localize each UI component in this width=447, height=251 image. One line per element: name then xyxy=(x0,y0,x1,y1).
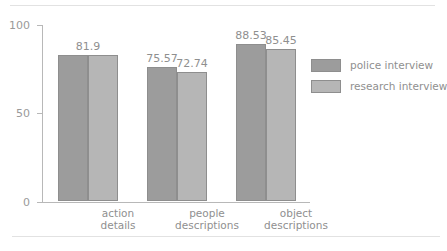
y-tick-label-100: 100 xyxy=(9,20,30,31)
y-axis-line xyxy=(42,25,43,203)
bar-police-interview-object-descriptions[interactable] xyxy=(236,44,266,201)
value-label-object-descriptions-research: 85.45 xyxy=(263,35,299,46)
value-label-people-descriptions-research: 72.74 xyxy=(174,58,210,69)
y-tick-mark-100: 100 xyxy=(37,25,42,26)
bottom-divider-rule xyxy=(12,236,440,237)
bar-research-interview-object-descriptions[interactable] xyxy=(266,49,296,201)
category-label-object-descriptions: object descriptions xyxy=(241,207,351,231)
legend-label-police-interview: police interview xyxy=(350,60,433,71)
value-label-action-details-shared: 81.9 xyxy=(58,41,118,52)
category-label-object-descriptions-line2: descriptions xyxy=(241,219,351,231)
y-tick-mark-50: 50 xyxy=(37,113,42,114)
bar-group-people-descriptions: 75.57 72.74 people descriptions xyxy=(147,25,207,202)
bar-police-interview-action-details[interactable] xyxy=(58,55,88,201)
chart-legend: police interview research interview xyxy=(311,57,447,99)
y-tick-label-0: 0 xyxy=(23,197,30,208)
legend-item-research-interview[interactable]: research interview xyxy=(311,78,447,95)
bar-police-interview-people-descriptions[interactable] xyxy=(147,67,177,201)
y-tick-label-50: 50 xyxy=(16,108,30,119)
bar-research-interview-people-descriptions[interactable] xyxy=(177,72,207,201)
top-divider-rule xyxy=(10,5,435,6)
bar-chart-figure: 100 50 0 81.9 action details 75.57 72.74… xyxy=(0,0,447,251)
x-axis-line xyxy=(42,202,310,203)
legend-swatch-research-interview xyxy=(311,80,341,93)
legend-label-research-interview: research interview xyxy=(350,81,447,92)
bar-group-action-details: 81.9 action details xyxy=(58,25,118,202)
category-label-object-descriptions-line1: object xyxy=(241,207,351,219)
legend-swatch-police-interview xyxy=(311,59,341,72)
bar-research-interview-action-details[interactable] xyxy=(88,55,118,201)
legend-item-police-interview[interactable]: police interview xyxy=(311,57,447,74)
bar-group-object-descriptions: 88.53 85.45 object descriptions xyxy=(236,25,296,202)
plot-area: 100 50 0 81.9 action details 75.57 72.74… xyxy=(42,25,310,202)
y-tick-mark-0: 0 xyxy=(37,202,42,203)
